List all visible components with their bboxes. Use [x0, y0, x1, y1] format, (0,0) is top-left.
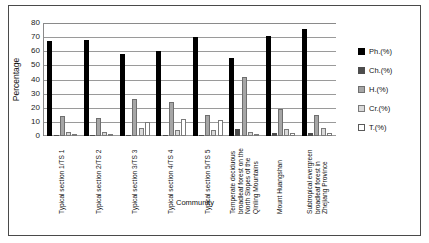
bar — [254, 134, 259, 136]
x-axis-title: Community — [150, 198, 240, 207]
bar — [145, 122, 150, 136]
bar-groups — [44, 23, 335, 136]
bar — [60, 116, 65, 136]
legend-item-label: Ph.(%) — [369, 47, 392, 56]
legend-swatch-icon — [358, 105, 365, 112]
legend-swatch-icon — [358, 124, 365, 131]
bar — [242, 77, 247, 136]
y-axis-tick-label: 30 — [31, 90, 40, 98]
bar — [96, 118, 101, 136]
y-axis-tick-label: 0 — [36, 132, 40, 140]
bar-group — [153, 23, 189, 136]
bar — [199, 135, 204, 136]
legend-item[interactable]: H.(%) — [358, 80, 418, 99]
bar — [229, 58, 234, 136]
bar-group — [80, 23, 116, 136]
bar-group — [262, 23, 298, 136]
legend-item[interactable]: Cr.(%) — [358, 99, 418, 118]
bar-group — [226, 23, 262, 136]
bar — [47, 41, 52, 136]
bar — [72, 134, 77, 136]
legend-item[interactable]: Ch.(%) — [358, 61, 418, 80]
x-axis-tick-label-text: Typical section 3/TS 3 — [131, 138, 139, 214]
bar — [248, 132, 253, 136]
y-axis-title: Percentage — [9, 23, 23, 136]
plot-wrapper: 01020304050607080 — [43, 23, 335, 136]
y-axis-tick-label: 40 — [31, 76, 40, 84]
bar — [321, 128, 326, 136]
bar — [120, 54, 125, 136]
legend-item-label: H.(%) — [369, 85, 388, 94]
bar — [290, 133, 295, 136]
bar — [126, 135, 131, 136]
x-axis-tick-label-text: Mount Huangshan — [277, 138, 285, 214]
bar — [266, 36, 271, 136]
bar — [175, 130, 180, 136]
x-axis-tick-label-text: Typical section 2/TS 2 — [95, 138, 103, 214]
y-axis-tick-label: 70 — [31, 33, 40, 41]
x-axis-tick-label: Typical section 3/TS 3 — [117, 138, 153, 216]
legend-swatch-icon — [358, 48, 365, 55]
y-axis-tick-label: 20 — [31, 104, 40, 112]
x-axis-tick-label-text: Subtropical evergreen broadleaf forest i… — [305, 138, 328, 214]
bar — [218, 120, 223, 136]
legend-item-label: Cr.(%) — [369, 104, 390, 113]
bar-group — [44, 23, 80, 136]
bar — [205, 115, 210, 136]
x-axis-tick-label: Mount Huangshan — [262, 138, 298, 216]
bar — [235, 129, 240, 136]
y-axis-tick-label: 50 — [31, 61, 40, 69]
bar — [54, 135, 59, 136]
bar — [181, 119, 186, 136]
bar-group — [117, 23, 153, 136]
x-axis-tick-label: Typical section 2/TS 2 — [80, 138, 116, 216]
chart-legend: Ph.(%)Ch.(%)H.(%)Cr.(%)T.(%) — [358, 42, 418, 137]
bar — [139, 128, 144, 136]
legend-item[interactable]: Ph.(%) — [358, 42, 418, 61]
bar — [156, 51, 161, 136]
bar — [84, 40, 89, 136]
bar — [278, 109, 283, 136]
legend-item-label: Ch.(%) — [369, 66, 392, 75]
x-axis-tick-label: Typical section 1/TS 1 — [44, 138, 80, 216]
bar — [108, 134, 113, 136]
legend-swatch-icon — [358, 86, 365, 93]
bar — [169, 102, 174, 136]
bar — [314, 115, 319, 136]
bar — [193, 37, 198, 136]
bar — [66, 132, 71, 136]
bar — [284, 129, 289, 136]
bar — [163, 135, 168, 136]
y-axis-tick-label: 80 — [31, 19, 40, 27]
bar — [211, 130, 216, 136]
bar — [132, 99, 137, 136]
x-axis-tick-label: Subtropical evergreen broadleaf forest i… — [299, 138, 335, 216]
legend-item[interactable]: T.(%) — [358, 118, 418, 137]
x-axis-tick-label-text: Typical section 1/TS 1 — [58, 138, 66, 214]
bar — [302, 29, 307, 136]
bar-group — [299, 23, 335, 136]
y-axis-tick-label: 60 — [31, 47, 40, 55]
figure-container: Percentage 01020304050607080 Typical sec… — [0, 0, 429, 243]
bar — [327, 133, 332, 136]
legend-item-label: T.(%) — [369, 123, 387, 132]
y-axis-tick-label: 10 — [31, 118, 40, 126]
bar-group — [190, 23, 226, 136]
bar — [102, 132, 107, 136]
bar — [308, 133, 313, 136]
bar — [90, 135, 95, 136]
bar — [272, 133, 277, 136]
legend-swatch-icon — [358, 67, 365, 74]
